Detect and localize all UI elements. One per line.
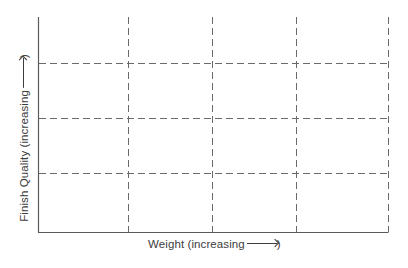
up-arrow-icon [23,58,24,88]
chart-plot-area [0,0,408,268]
vertical-grid-lines [129,17,389,232]
right-arrow-icon [247,243,277,244]
y-axis-label: Finish Quality (increasing) [18,54,30,222]
x-axis-label-text: Weight (increasing [148,238,245,250]
x-axis-label: Weight (increasing) [148,238,281,250]
y-axis-label-text: Finish Quality (increasing [18,90,30,222]
horizontal-grid-lines [39,64,388,174]
axes [38,17,389,233]
